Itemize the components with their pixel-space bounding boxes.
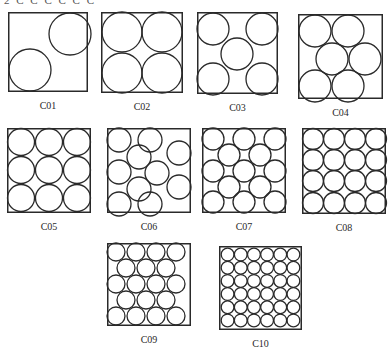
- packed-circle: [264, 191, 286, 213]
- packed-circle: [324, 129, 345, 150]
- packed-circle: [234, 314, 247, 327]
- packed-circle: [127, 177, 151, 201]
- square-container: [197, 12, 278, 94]
- packed-circle: [287, 288, 300, 301]
- packed-circle: [221, 248, 234, 261]
- packed-circle: [167, 175, 191, 199]
- panel-c10: [219, 246, 302, 330]
- packed-circle: [102, 53, 142, 93]
- panel-label-c03: C03: [208, 102, 268, 113]
- packed-circle: [261, 301, 274, 314]
- packed-circle: [197, 63, 229, 95]
- panel-label-c09: C09: [119, 334, 179, 345]
- packed-circle: [234, 261, 247, 274]
- packed-circle: [234, 301, 247, 314]
- packed-circle: [234, 248, 247, 261]
- panel-label-c08: C08: [314, 222, 374, 233]
- packed-circle: [221, 301, 234, 314]
- packed-circle: [8, 129, 35, 156]
- packed-circle: [303, 150, 324, 171]
- packed-circle: [303, 129, 324, 150]
- packed-circle: [197, 13, 229, 45]
- packed-circle: [221, 261, 234, 274]
- packed-circle: [127, 243, 145, 261]
- packed-circle: [64, 157, 91, 184]
- packed-circle: [287, 301, 300, 314]
- panel-c02: [101, 12, 183, 93]
- packed-circle: [202, 128, 224, 150]
- packed-circle: [274, 301, 287, 314]
- panel-label-c10: C10: [231, 338, 291, 348]
- packed-circle: [248, 314, 261, 327]
- packed-circle: [117, 291, 135, 309]
- packed-circle: [167, 275, 185, 293]
- packed-circle: [233, 191, 255, 213]
- packed-circle: [137, 291, 155, 309]
- packed-circle: [287, 314, 300, 327]
- packed-circle: [234, 275, 247, 288]
- packed-circle: [324, 150, 345, 171]
- packed-circle: [64, 129, 91, 156]
- packed-circle: [261, 314, 274, 327]
- packed-circle: [324, 171, 345, 192]
- square-container: [107, 243, 191, 326]
- panel-c06: [107, 128, 191, 213]
- packed-circle: [332, 70, 364, 102]
- packed-circle: [167, 243, 185, 261]
- packed-circle: [9, 49, 51, 91]
- packed-circle: [221, 275, 234, 288]
- panel-c09: [107, 243, 191, 326]
- packed-circle: [142, 12, 182, 52]
- panel-c07: [202, 128, 286, 213]
- panel-label-c06: C06: [119, 221, 179, 232]
- packed-circle: [102, 12, 142, 52]
- packed-circle: [221, 314, 234, 327]
- packed-circle: [274, 275, 287, 288]
- square-container: [219, 246, 302, 330]
- packed-circle: [147, 275, 165, 293]
- packed-circle: [157, 259, 175, 277]
- packed-circle: [261, 261, 274, 274]
- packed-circle: [167, 307, 185, 325]
- packed-circle: [138, 128, 162, 152]
- packed-circle: [287, 261, 300, 274]
- panel-c05: [7, 128, 91, 213]
- packed-circle: [274, 314, 287, 327]
- packed-circle: [107, 275, 125, 293]
- packed-circle: [147, 307, 165, 325]
- packed-circle: [274, 261, 287, 274]
- packed-circle: [274, 288, 287, 301]
- packed-circle: [299, 70, 331, 102]
- panel-label-c01: C01: [18, 100, 78, 111]
- packed-circle: [345, 171, 366, 192]
- packed-circle: [36, 129, 63, 156]
- panel-label-c07: C07: [214, 221, 274, 232]
- packed-circle: [366, 193, 387, 214]
- packed-circle: [127, 275, 145, 293]
- packed-circle: [274, 248, 287, 261]
- panel-c01: [8, 12, 88, 92]
- packed-circle: [246, 13, 278, 45]
- packed-circle: [287, 275, 300, 288]
- packed-circle: [345, 193, 366, 214]
- packed-circle: [299, 15, 331, 47]
- packed-circle: [332, 15, 364, 47]
- packed-circle: [248, 301, 261, 314]
- square-container: [7, 128, 91, 213]
- panel-c08: [302, 128, 386, 214]
- panel-label-c05: C05: [19, 221, 79, 232]
- packed-circle: [221, 38, 253, 70]
- packed-circle: [107, 128, 131, 152]
- packed-circle: [49, 13, 91, 55]
- packed-circle: [366, 150, 387, 171]
- packed-circle: [107, 307, 125, 325]
- packed-circle: [261, 275, 274, 288]
- panel-label-c02: C02: [112, 101, 172, 112]
- packed-circle: [36, 185, 63, 212]
- packed-circle: [261, 248, 274, 261]
- square-container: [101, 12, 183, 93]
- packed-circle: [261, 288, 274, 301]
- packed-circle: [345, 150, 366, 171]
- packed-circle: [246, 63, 278, 95]
- packed-circle: [324, 193, 345, 214]
